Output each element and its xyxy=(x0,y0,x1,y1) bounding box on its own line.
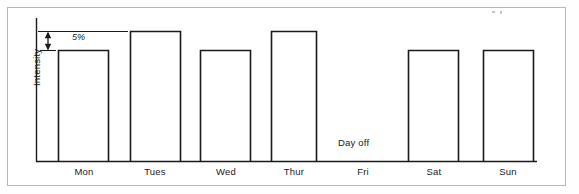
scan-artifact-speck xyxy=(492,11,495,13)
x-tick-label-mon: Mon xyxy=(58,166,110,177)
x-tick-label-sat: Sat xyxy=(408,166,460,177)
bar-tues xyxy=(131,32,181,162)
bar-chart-figure: Intensity 5% Day off Mon Tues Wed Thur F… xyxy=(0,0,579,194)
x-tick-label-fri: Fri xyxy=(337,166,389,177)
chart-canvas xyxy=(0,0,579,194)
bar-wed xyxy=(201,51,251,162)
x-tick-label-tues: Tues xyxy=(129,166,181,177)
bar-mon xyxy=(59,51,109,162)
scan-artifact-speck-2 xyxy=(500,11,502,14)
x-tick-label-thur: Thur xyxy=(268,166,320,177)
day-off-label: Day off xyxy=(338,137,369,148)
y-axis-label: Intensity xyxy=(31,49,42,86)
x-tick-label-sun: Sun xyxy=(482,166,534,177)
bar-sat xyxy=(409,51,459,162)
bar-thur xyxy=(272,32,317,162)
five-percent-arrow-icon xyxy=(45,32,51,51)
bar-sun xyxy=(484,51,534,162)
five-percent-label: 5% xyxy=(72,32,85,42)
x-tick-label-wed: Wed xyxy=(200,166,252,177)
